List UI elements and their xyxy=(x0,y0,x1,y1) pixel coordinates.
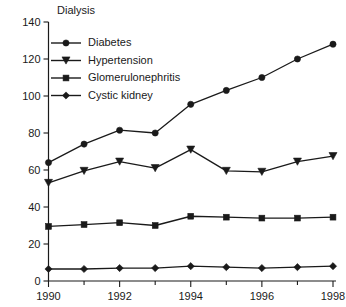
data-point-marker-diamond xyxy=(45,265,52,272)
y-axis-tick-label: 60 xyxy=(28,164,40,176)
data-point-marker-square xyxy=(46,224,52,230)
y-axis-tick-label: 20 xyxy=(28,238,40,250)
legend-label: Hypertension xyxy=(88,54,153,66)
data-point-marker-diamond xyxy=(116,264,123,271)
data-point-marker-circle xyxy=(223,87,229,93)
data-point-marker-triangle-down xyxy=(45,179,53,186)
data-point-marker-circle xyxy=(117,127,123,133)
series-line xyxy=(49,150,334,183)
legend-label: Diabetes xyxy=(88,36,132,48)
data-point-marker-diamond xyxy=(187,263,194,270)
data-point-marker-diamond xyxy=(152,264,159,271)
y-axis-tick-label: 120 xyxy=(22,53,40,65)
legend-label: Glomerulonephritis xyxy=(88,71,181,83)
data-point-marker-circle xyxy=(330,41,336,47)
x-axis-tick-label: 1996 xyxy=(250,290,274,302)
y-axis-tick-label: 0 xyxy=(34,275,40,287)
axis-ticks-layer xyxy=(44,22,334,287)
chart-title-layer: Dialysis xyxy=(57,4,95,16)
y-axis-tick-label: 140 xyxy=(22,16,40,28)
data-point-marker-square xyxy=(223,214,229,220)
data-point-marker-diamond xyxy=(223,264,230,271)
data-point-marker-square xyxy=(152,223,158,229)
legend-label: Cystic kidney xyxy=(88,89,153,101)
legend-item-cystic-kidney: Cystic kidney xyxy=(51,89,153,101)
data-point-marker-square xyxy=(188,213,194,219)
data-point-marker-square xyxy=(330,214,336,220)
legend-item-hypertension: Hypertension xyxy=(51,54,153,66)
x-axis-tick-label: 1998 xyxy=(321,290,345,302)
data-point-marker-square xyxy=(259,215,265,221)
chart-canvas: Dialysis 0204060801001201401990199219941… xyxy=(0,0,346,307)
data-point-marker-circle xyxy=(152,130,158,136)
series-hypertension xyxy=(45,146,338,187)
x-axis-tick-label: 1990 xyxy=(36,290,60,302)
dialysis-line-chart: Dialysis 0204060801001201401990199219941… xyxy=(0,0,346,307)
data-point-marker-circle xyxy=(294,56,300,62)
data-point-marker-square xyxy=(81,222,87,228)
series-glomerulonephritis xyxy=(46,213,336,229)
data-point-marker-diamond xyxy=(294,264,301,271)
legend-item-glomerulonephritis: Glomerulonephritis xyxy=(51,71,181,83)
data-point-marker-square xyxy=(295,215,301,221)
data-point-marker-square xyxy=(117,220,123,226)
data-point-marker-circle xyxy=(45,160,51,166)
data-point-marker-square xyxy=(63,75,69,81)
legend-item-diabetes: Diabetes xyxy=(51,36,132,48)
x-axis-tick-label: 1994 xyxy=(179,290,203,302)
data-point-marker-triangle-down xyxy=(187,146,195,153)
data-point-marker-diamond xyxy=(80,265,87,272)
data-point-marker-circle xyxy=(188,101,194,107)
y-axis-tick-label: 100 xyxy=(22,90,40,102)
data-point-marker-diamond xyxy=(258,264,265,271)
x-axis-tick-label: 1992 xyxy=(107,290,131,302)
y-axis-tick-label: 80 xyxy=(28,127,40,139)
data-point-marker-circle xyxy=(81,141,87,147)
series-cystic-kidney xyxy=(45,263,337,273)
data-point-marker-diamond xyxy=(329,263,336,270)
data-point-marker-circle xyxy=(63,40,69,46)
chart-title: Dialysis xyxy=(57,4,95,16)
data-point-marker-diamond xyxy=(62,92,69,99)
chart-legend: DiabetesHypertensionGlomerulonephritisCy… xyxy=(51,36,181,101)
data-point-marker-circle xyxy=(259,74,265,80)
y-axis-tick-label: 40 xyxy=(28,201,40,213)
data-point-marker-triangle-down xyxy=(80,167,88,174)
